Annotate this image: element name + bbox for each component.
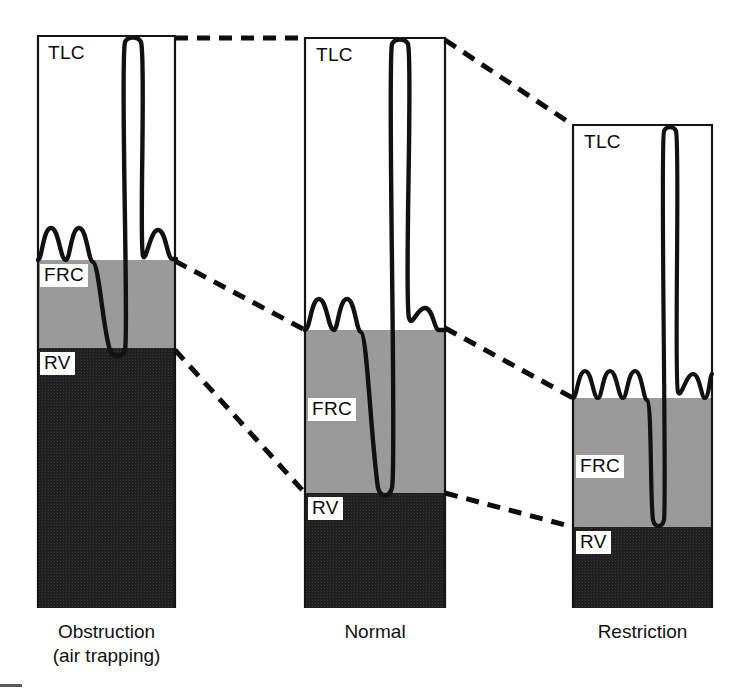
restriction-tlc-label: TLC bbox=[582, 131, 625, 154]
page-edge-mark bbox=[0, 684, 22, 687]
obstruction-tlc-band bbox=[38, 36, 175, 260]
connector-tlc-middle-to-right bbox=[445, 40, 573, 125]
lung-volume-diagram: TLC FRC RV TLC FRC RV TLC FRC RV Obstruc… bbox=[0, 0, 737, 690]
restriction-frc-label: FRC bbox=[576, 455, 624, 478]
caption-obstruction: Obstruction (air trapping) bbox=[38, 620, 175, 668]
connector-rv-left-to-middle bbox=[175, 350, 305, 493]
normal-frc-label: FRC bbox=[308, 398, 356, 421]
normal-rv-label: RV bbox=[308, 497, 343, 520]
panel-obstruction bbox=[38, 36, 176, 608]
panel-normal bbox=[305, 38, 445, 608]
caption-restriction: Restriction bbox=[573, 620, 712, 644]
restriction-rv-label: RV bbox=[576, 531, 611, 554]
normal-tlc-label: TLC bbox=[314, 44, 357, 67]
connector-frc-left-to-middle bbox=[175, 261, 305, 330]
restriction-tlc-band bbox=[573, 125, 712, 398]
diagram-canvas bbox=[0, 0, 737, 690]
connector-rv-middle-to-right bbox=[445, 493, 573, 527]
obstruction-frc-label: FRC bbox=[40, 264, 88, 287]
obstruction-rv-label: RV bbox=[40, 352, 75, 375]
normal-tlc-band bbox=[305, 38, 445, 330]
connector-frc-middle-to-right bbox=[445, 328, 573, 398]
caption-normal: Normal bbox=[305, 620, 445, 644]
obstruction-rv-band bbox=[38, 348, 175, 608]
obstruction-tlc-label: TLC bbox=[46, 42, 89, 65]
